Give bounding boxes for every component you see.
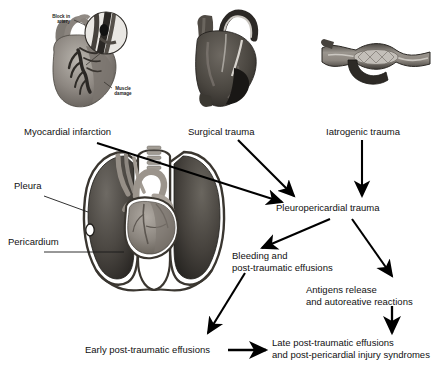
node-antigens-release-and-autoreative-reactions: Antigens release and autoreative reactio… (306, 284, 446, 308)
arrow-surgical-to-pleuropericardial (238, 140, 294, 196)
node-early-post-traumatic-effusions: Early post-traumatic effusions (85, 344, 210, 355)
block-in-artery-line1: Block in (52, 14, 70, 19)
node-pleuropericardial-trauma: Pleuropericardial trauma (276, 202, 380, 213)
arrow-pleuropericardial-to-antigens (352, 219, 392, 276)
illustration-thorax-cross-section (78, 140, 230, 310)
antigens-line1: Antigens release (306, 284, 377, 295)
node-bleeding-and-post-traumatic-effusions: Bleeding and post-traumatic effusions (232, 250, 352, 274)
bleeding-line2: post-traumatic effusions (232, 262, 333, 273)
late-line2: and post-pericardial injury syndromes (272, 349, 430, 360)
muscle-damage-line2: damage (114, 91, 131, 96)
label-pleura: Pleura (14, 180, 41, 191)
muscle-damage-line1: Muscle (115, 86, 131, 91)
diagram-canvas: Block in artery Muscle damage (0, 0, 448, 371)
illustration-iatrogenic-trauma (318, 30, 434, 92)
node-late-post-traumatic-effusions: Late post-traumatic effusions and post-p… (272, 337, 448, 361)
late-line1: Late post-traumatic effusions (272, 337, 394, 348)
arrow-pleuropericardial-to-bleeding (262, 219, 330, 248)
caption-myocardial-infarction: Myocardial infarction (24, 126, 111, 137)
annotation-block-in-artery: Block in artery (40, 14, 70, 25)
bleeding-line1: Bleeding and (232, 250, 287, 261)
surgical-heart-graphic (182, 6, 278, 116)
annotation-muscle-damage: Muscle damage (108, 86, 138, 97)
illustration-surgical-trauma (182, 6, 278, 116)
caption-iatrogenic-trauma: Iatrogenic trauma (326, 126, 400, 137)
illustration-myocardial-infarction: Block in artery Muscle damage (34, 8, 140, 116)
angioplasty-vessel-graphic (318, 30, 434, 92)
caption-surgical-trauma: Surgical trauma (188, 126, 255, 137)
thorax-graphic (78, 140, 230, 310)
block-in-artery-line2: artery (57, 19, 70, 24)
label-pericardium: Pericardium (8, 236, 59, 247)
antigens-line2: and autoreative reactions (306, 296, 413, 307)
